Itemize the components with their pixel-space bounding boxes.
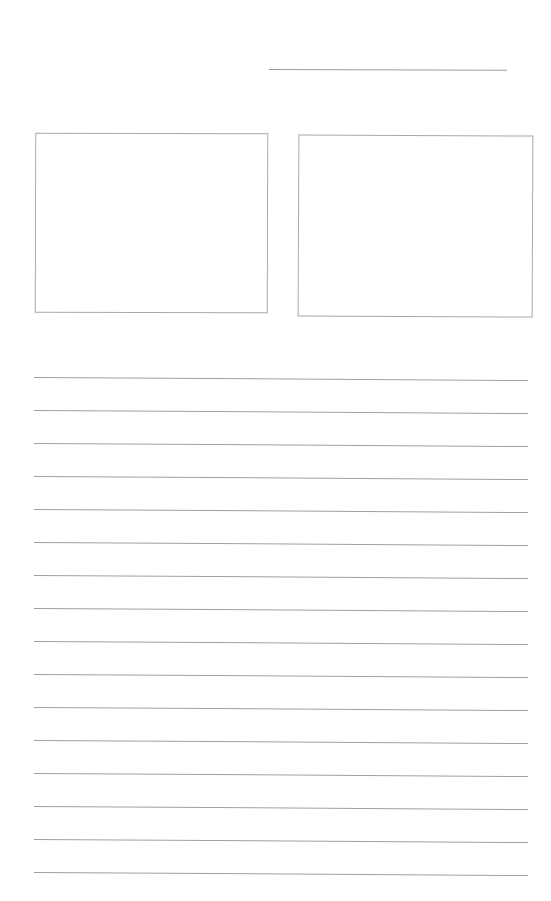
writing-line xyxy=(34,443,528,447)
writing-line xyxy=(34,410,528,414)
writing-line xyxy=(34,707,528,711)
writing-line xyxy=(34,806,528,810)
writing-line xyxy=(34,773,528,777)
writing-line xyxy=(34,674,528,678)
drawing-box-right xyxy=(298,134,534,317)
writing-line xyxy=(34,542,528,546)
writing-line xyxy=(34,839,528,843)
writing-line xyxy=(34,872,528,876)
writing-line xyxy=(34,476,528,480)
writing-line xyxy=(34,641,528,645)
drawing-box-left xyxy=(35,133,268,314)
writing-line xyxy=(34,509,528,513)
writing-line xyxy=(34,740,528,744)
name-line xyxy=(269,69,507,71)
writing-line xyxy=(34,575,528,579)
writing-line xyxy=(34,377,528,381)
writing-line xyxy=(34,608,528,612)
